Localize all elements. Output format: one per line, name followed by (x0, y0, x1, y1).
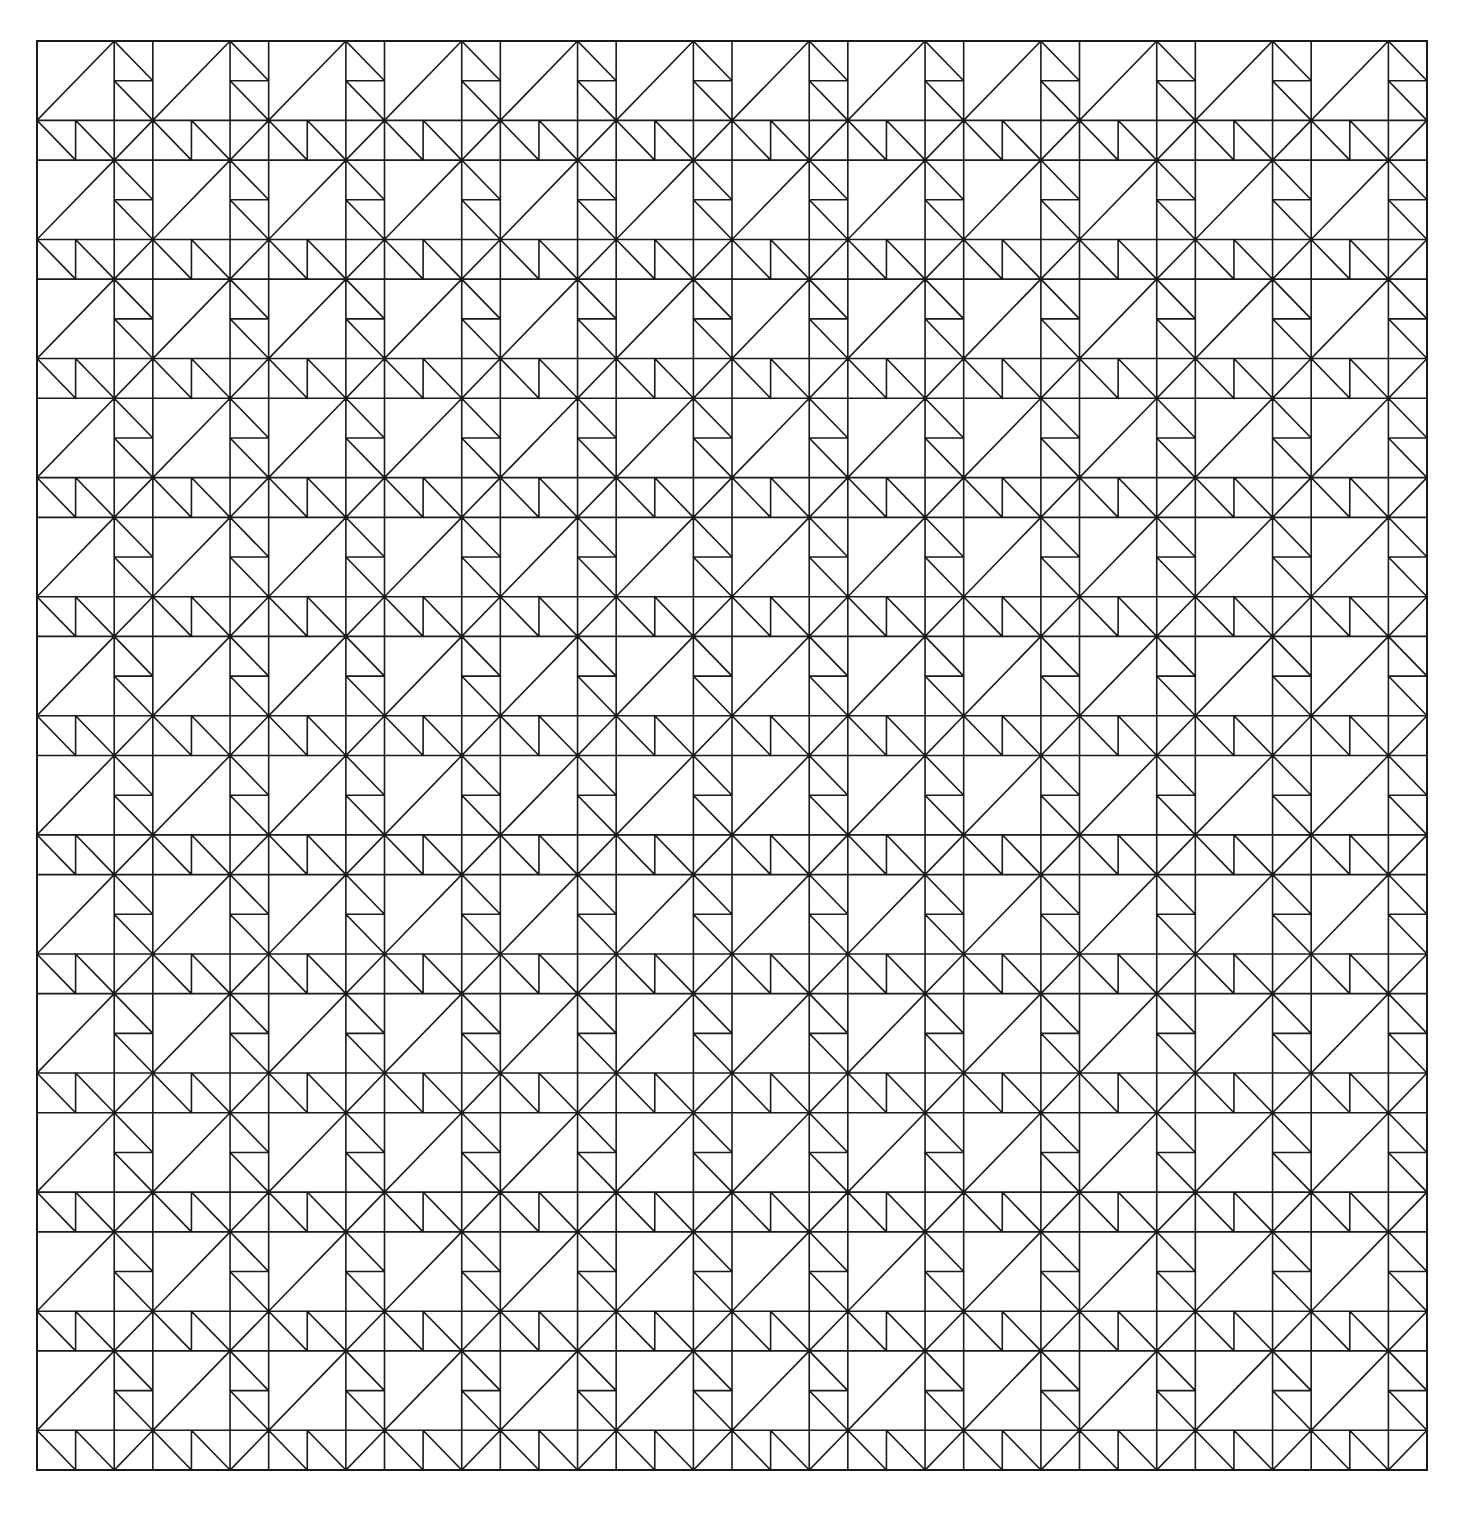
pattern-grid (0, 0, 1468, 1523)
background (0, 0, 1468, 1523)
